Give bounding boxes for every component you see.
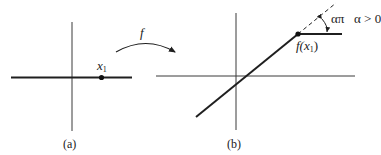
point-label-subscript: 1 xyxy=(103,65,107,74)
fx-prefix: f( xyxy=(296,38,304,53)
panel-b-caption: (b) xyxy=(227,138,241,150)
fx-suffix: ) xyxy=(314,38,318,53)
panel-a-caption: (a) xyxy=(63,138,76,150)
panel-a-point-label: x1 xyxy=(97,59,107,74)
panel-b-point-fx1 xyxy=(295,31,300,36)
condition-label: α > 0 xyxy=(354,12,381,25)
panel-b-point-label: f(x1) xyxy=(296,39,318,54)
mapping-label: f xyxy=(140,26,144,39)
mapping-arrow-icon xyxy=(116,44,175,53)
panel-a-point-x1 xyxy=(99,75,104,80)
panel-b xyxy=(156,3,355,130)
angle-label: απ xyxy=(331,12,344,25)
angle-arc-icon xyxy=(322,19,327,32)
panel-a xyxy=(11,22,132,131)
